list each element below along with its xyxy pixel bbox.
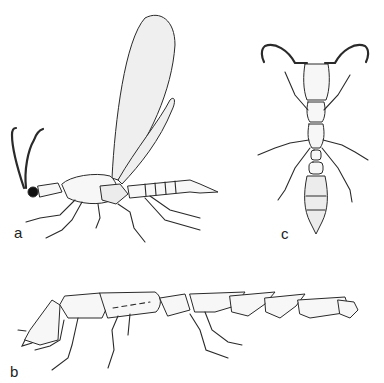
panel-label-c: c — [281, 226, 289, 241]
leg — [150, 196, 200, 218]
leg — [258, 140, 309, 155]
leg — [118, 204, 145, 242]
leg — [190, 314, 228, 358]
insect-c — [258, 45, 368, 234]
antenna-right — [325, 45, 368, 63]
panel-label-a: a — [14, 225, 22, 240]
abdomen-segment — [160, 294, 190, 316]
antenna-base — [18, 330, 26, 331]
gaster — [305, 176, 328, 234]
head-eye — [28, 187, 38, 197]
head — [304, 64, 330, 100]
leg — [145, 198, 200, 230]
illustration-canvas — [0, 0, 384, 383]
antenna-right — [25, 129, 43, 188]
leg — [128, 314, 130, 335]
abdomen-tip — [338, 300, 358, 318]
head — [25, 300, 60, 345]
leg — [46, 202, 82, 238]
leg — [26, 200, 75, 222]
leg — [108, 316, 118, 368]
abdomen — [128, 180, 218, 198]
leg — [205, 312, 242, 345]
antenna-left — [262, 45, 307, 63]
thorax-plate — [100, 184, 128, 204]
leg — [96, 204, 100, 228]
insect-figure: a b c — [0, 0, 384, 383]
petiole — [311, 150, 321, 160]
panel-label-b: b — [10, 364, 18, 379]
head — [38, 183, 62, 197]
mesothorax — [308, 124, 324, 148]
insect-b — [18, 292, 358, 370]
antenna-left — [12, 128, 24, 188]
postpetiole — [309, 162, 323, 174]
pronotum — [307, 102, 325, 122]
insect-a — [12, 15, 218, 242]
